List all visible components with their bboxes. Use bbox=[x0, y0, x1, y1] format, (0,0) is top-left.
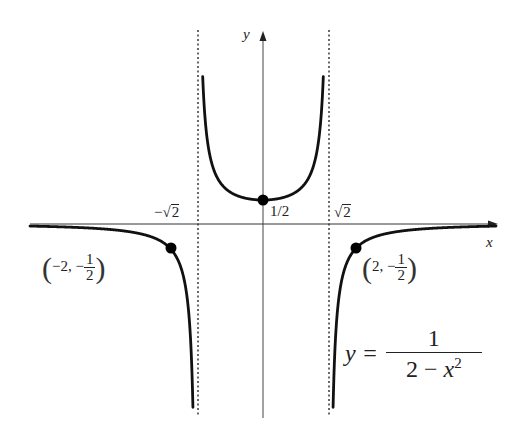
sqrt-symbol: √ bbox=[162, 204, 170, 220]
equation-lhs: y = bbox=[345, 340, 378, 367]
sqrt-symbol: √ bbox=[334, 204, 342, 220]
numerator: 1 bbox=[395, 252, 407, 268]
label-point-neg2: (−2, −12) bbox=[42, 252, 105, 283]
paren-open: ( bbox=[362, 251, 372, 284]
numerator: 1 bbox=[84, 252, 96, 268]
tick-label-y-intercept: 1/2 bbox=[270, 203, 289, 220]
equation-denominator: 2 − x2 bbox=[404, 353, 464, 381]
denominator: 2 bbox=[84, 268, 96, 283]
paren-close: ) bbox=[407, 251, 417, 284]
equation-annotation: y = 1 2 − x2 bbox=[345, 326, 482, 381]
sqrt-radicand: 2 bbox=[342, 204, 351, 220]
point-y-intercept bbox=[258, 195, 269, 206]
tick-label-neg-sqrt2: −√2 bbox=[154, 204, 179, 221]
fraction: 12 bbox=[395, 252, 407, 283]
equation-fraction: 1 2 − x2 bbox=[386, 326, 482, 381]
equation-numerator: 1 bbox=[386, 326, 482, 353]
tick-label-pos-sqrt2: √2 bbox=[334, 204, 351, 221]
paren-close: ) bbox=[95, 251, 105, 284]
den-constant: 2 − bbox=[406, 356, 444, 382]
denominator: 2 bbox=[395, 268, 407, 283]
point-neg2 bbox=[166, 243, 177, 254]
den-exponent: 2 bbox=[454, 355, 462, 371]
point-pos2 bbox=[351, 243, 362, 254]
fraction: 12 bbox=[84, 252, 96, 283]
y-axis-arrow-icon bbox=[260, 31, 267, 41]
x-axis-label: x bbox=[486, 234, 493, 251]
paren-open: ( bbox=[42, 251, 52, 284]
sqrt-radicand: 2 bbox=[171, 204, 180, 220]
y-axis-label: y bbox=[243, 26, 250, 43]
point-coords: 2, − bbox=[372, 258, 395, 274]
point-coords: −2, − bbox=[52, 258, 84, 274]
label-point-pos2: (2, −12) bbox=[362, 252, 417, 283]
den-variable: x bbox=[444, 356, 455, 382]
